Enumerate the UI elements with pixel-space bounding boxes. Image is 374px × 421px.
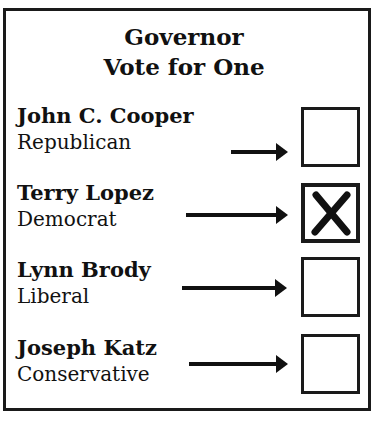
arrow-right-icon [231,150,279,154]
vote-checkbox-katz[interactable] [301,334,360,394]
candidate-party: Republican [17,129,131,155]
vote-checkbox-cooper[interactable] [301,107,360,167]
candidate-party: Liberal [17,283,89,309]
vote-checkbox-brody[interactable] [301,257,360,317]
x-mark-icon [305,187,356,239]
office-title: Governor [0,22,368,52]
candidate-name: John C. Cooper [17,103,194,129]
arrow-right-icon [186,213,279,217]
arrow-right-icon [189,362,279,366]
candidate-name: Lynn Brody [17,257,151,283]
candidate-name: Terry Lopez [17,180,154,206]
candidate-party: Conservative [17,361,150,387]
vote-checkbox-lopez[interactable] [301,183,360,243]
vote-instruction: Vote for One [0,52,368,82]
arrow-right-icon [182,286,278,290]
candidate-party: Democrat [17,206,117,232]
candidate-name: Joseph Katz [17,335,157,361]
